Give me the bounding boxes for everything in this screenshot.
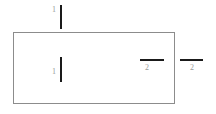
tick-mark-inner-horizontal	[140, 59, 164, 61]
main-rectangle	[13, 32, 175, 104]
diagram-canvas: 1 1 2 2	[0, 0, 216, 114]
tick-label-top-vertical: 1	[52, 6, 56, 14]
tick-mark-inner-vertical	[60, 57, 62, 82]
tick-label-outer-horizontal: 2	[190, 64, 194, 72]
tick-mark-top-vertical	[60, 5, 62, 29]
tick-label-inner-horizontal: 2	[145, 64, 149, 72]
tick-label-inner-vertical: 1	[52, 68, 56, 76]
tick-mark-outer-horizontal	[180, 59, 203, 61]
